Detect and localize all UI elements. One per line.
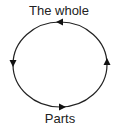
arrow-down-icon — [10, 60, 17, 67]
parts-label: Parts — [0, 112, 116, 125]
arrow-right-icon — [59, 104, 66, 111]
cycle-ring — [13, 22, 107, 107]
whole-parts-cycle-diagram: The whole Parts — [0, 0, 116, 129]
arrow-up-icon — [104, 58, 111, 65]
cycle-circle — [0, 0, 116, 129]
arrow-left-icon — [56, 19, 63, 26]
